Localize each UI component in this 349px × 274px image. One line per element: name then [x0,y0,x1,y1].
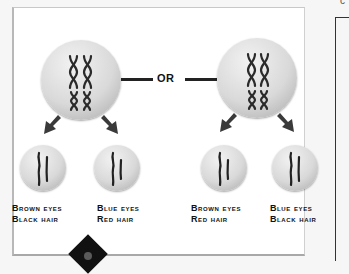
chromosome-single-1-icon [20,145,66,191]
trait-hair: Red hair [97,214,139,225]
gamete-label-3: Brown eyes Red hair [191,203,241,225]
trait-hair: Black hair [12,214,62,225]
gamete-label-2: Blue eyes Red hair [97,203,139,225]
gamete-label-4: Blue eyes Black hair [270,203,316,225]
trait-hair: Black hair [270,214,316,225]
trait-hair: Red hair [191,214,241,225]
trait-eyes: Brown eyes [191,203,241,214]
diamond-center-dot [84,252,92,260]
trait-eyes: Brown eyes [12,203,62,214]
gamete-label-1: Brown eyes Black hair [12,203,62,225]
trait-eyes: Blue eyes [270,203,316,214]
chromosome-single-3-icon [201,145,247,191]
trait-eyes: Blue eyes [97,203,139,214]
chromosome-single-4-icon [272,145,318,191]
chromosome-single-2-icon [94,145,140,191]
